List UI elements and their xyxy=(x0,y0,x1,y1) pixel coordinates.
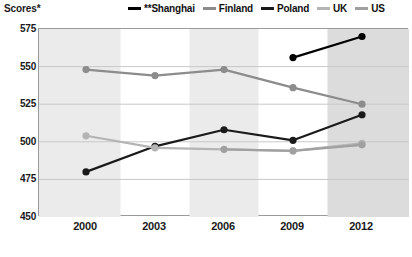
legend-swatch-us-icon xyxy=(355,7,368,10)
data-point-poland-2000[interactable] xyxy=(82,168,89,175)
data-point-finland-2003[interactable] xyxy=(151,72,158,79)
y-tick-450: 450 xyxy=(2,211,36,222)
legend-swatch-shanghai-icon xyxy=(128,7,141,10)
background-band-2000 xyxy=(39,29,121,217)
background-band-2006 xyxy=(190,29,259,217)
legend-label-shanghai: **Shanghai xyxy=(144,3,195,14)
legend-label-uk: UK xyxy=(333,3,347,14)
legend-item-finland[interactable]: Finland xyxy=(203,3,253,14)
x-tick-2003: 2003 xyxy=(124,220,184,232)
data-point-shanghai-2012[interactable] xyxy=(358,33,365,40)
x-tick-2006: 2006 xyxy=(193,220,253,232)
data-point-poland-2009[interactable] xyxy=(289,137,296,144)
legend-item-us[interactable]: US xyxy=(355,3,385,14)
data-point-poland-2012[interactable] xyxy=(358,111,365,118)
data-point-poland-2006[interactable] xyxy=(220,126,227,133)
y-tick-475: 475 xyxy=(2,173,36,184)
y-tick-500: 500 xyxy=(2,135,36,146)
x-axis-tick-labels: 20002003200620092012 xyxy=(38,220,408,240)
x-tick-2012: 2012 xyxy=(331,220,391,232)
plot-svg xyxy=(39,29,409,217)
data-point-uk-2000[interactable] xyxy=(82,132,89,139)
data-point-shanghai-2009[interactable] xyxy=(289,54,296,61)
legend-item-uk[interactable]: UK xyxy=(317,3,347,14)
plot-area xyxy=(38,28,408,216)
legend-swatch-finland-icon xyxy=(203,7,216,10)
x-tick-2000: 2000 xyxy=(55,220,115,232)
legend-label-us: US xyxy=(371,3,385,14)
data-point-finland-2000[interactable] xyxy=(82,66,89,73)
data-point-finland-2006[interactable] xyxy=(220,66,227,73)
legend-item-shanghai[interactable]: **Shanghai xyxy=(128,3,195,14)
y-tick-575: 575 xyxy=(2,23,36,34)
y-axis-tick-labels: 450475500525550575 xyxy=(0,28,36,216)
y-tick-550: 550 xyxy=(2,60,36,71)
chart-root: Scores* **ShanghaiFinlandPolandUKUS 4504… xyxy=(0,0,412,257)
data-point-finland-2009[interactable] xyxy=(289,84,296,91)
legend-label-finland: Finland xyxy=(219,3,253,14)
legend-swatch-poland-icon xyxy=(261,7,274,10)
data-point-us-2012[interactable] xyxy=(358,141,365,148)
y-tick-525: 525 xyxy=(2,98,36,109)
x-tick-2009: 2009 xyxy=(262,220,322,232)
chart-legend: **ShanghaiFinlandPolandUKUS xyxy=(128,3,385,14)
legend-swatch-uk-icon xyxy=(317,7,330,10)
y-axis-title: Scores* xyxy=(4,3,41,14)
data-point-uk-2003[interactable] xyxy=(151,144,158,151)
data-point-us-2006[interactable] xyxy=(220,146,227,153)
data-point-us-2009[interactable] xyxy=(289,147,296,154)
data-point-finland-2012[interactable] xyxy=(358,101,365,108)
legend-item-poland[interactable]: Poland xyxy=(261,3,309,14)
legend-label-poland: Poland xyxy=(277,3,309,14)
